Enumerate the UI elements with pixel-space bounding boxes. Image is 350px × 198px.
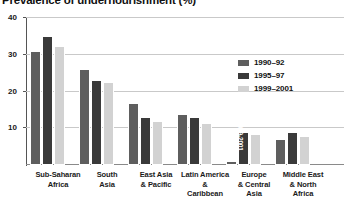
plot-area: 102030401999-2001 <box>26 18 344 165</box>
bar <box>189 117 200 165</box>
bar <box>201 123 212 165</box>
legend-color-swatch <box>238 73 249 79</box>
bar-group-bars <box>173 18 225 165</box>
bar-group <box>173 18 225 165</box>
bar <box>103 82 114 165</box>
chart-title: Prevalence of undernourishment (%) <box>2 0 196 6</box>
bar-group-bars <box>124 18 176 165</box>
bar-group-bars <box>26 18 78 165</box>
bar <box>299 136 310 165</box>
bar <box>128 103 139 165</box>
bar-inner-annotation: 1999-2001 <box>237 121 244 150</box>
bar-group <box>124 18 176 165</box>
y-axis-tick-label: 30 <box>0 51 17 59</box>
x-axis-category-label: Middle East& NorthAfrica <box>270 170 336 198</box>
legend-item[interactable]: 1990–92 <box>238 56 293 69</box>
legend-item[interactable]: 1995–97 <box>238 69 293 82</box>
bar <box>140 117 151 165</box>
chart-legend: 1990–921995–971999–2001 <box>238 56 293 95</box>
legend-item-label: 1995–97 <box>254 71 284 80</box>
x-axis-category-label-line: Africa <box>270 189 336 198</box>
legend-item-label: 1999–2001 <box>254 84 293 93</box>
legend-item[interactable]: 1999–2001 <box>238 82 293 95</box>
bar <box>177 114 188 165</box>
x-axis-category-label-line: Middle East <box>270 170 336 180</box>
legend-color-swatch <box>238 86 249 92</box>
bar <box>91 80 102 165</box>
y-axis-tick-label: 40 <box>0 14 17 22</box>
bar <box>275 139 286 165</box>
bar-group <box>75 18 127 165</box>
y-axis-tick-label: 10 <box>0 124 17 132</box>
bar <box>287 132 298 165</box>
x-axis-category-label-line: & North <box>270 180 336 190</box>
bar <box>152 121 163 165</box>
bar-group-bars <box>75 18 127 165</box>
bar <box>54 46 65 165</box>
bar <box>79 69 90 165</box>
bar: 1999-2001 <box>238 132 249 165</box>
bar-group <box>26 18 78 165</box>
legend-color-swatch <box>238 60 249 66</box>
chart-container: Prevalence of undernourishment (%) 10203… <box>0 0 350 198</box>
y-axis-tick-label: 20 <box>0 88 17 96</box>
bar <box>42 36 53 165</box>
bar <box>226 161 237 165</box>
bar <box>250 134 261 165</box>
bar <box>30 51 41 165</box>
legend-item-label: 1990–92 <box>254 58 284 67</box>
